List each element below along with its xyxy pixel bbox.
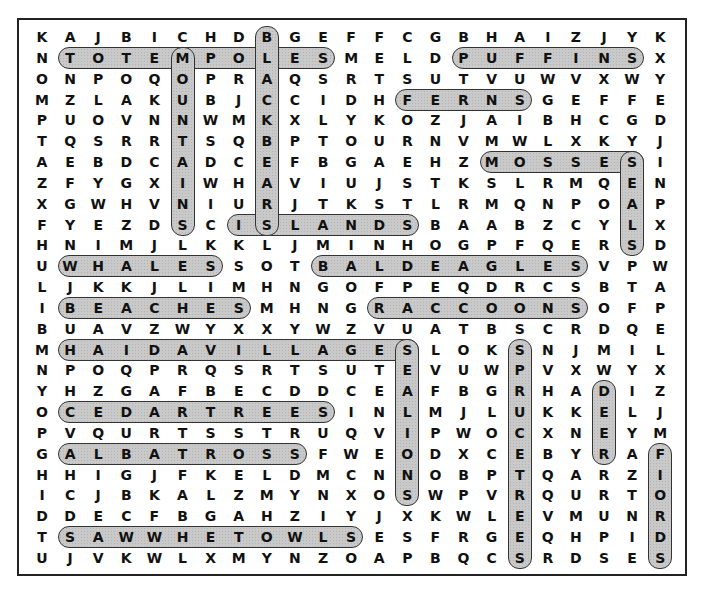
grid-letter[interactable]: L: [86, 90, 110, 110]
grid-letter[interactable]: Q: [227, 131, 251, 151]
grid-letter[interactable]: F: [620, 298, 644, 318]
grid-letter[interactable]: H: [367, 90, 391, 110]
grid-letter[interactable]: F: [171, 381, 195, 401]
grid-letter[interactable]: G: [114, 381, 138, 401]
grid-letter[interactable]: N: [311, 485, 335, 505]
grid-letter[interactable]: S: [508, 319, 532, 339]
grid-letter[interactable]: J: [283, 194, 307, 214]
grid-letter[interactable]: C: [142, 298, 166, 318]
grid-letter[interactable]: T: [255, 423, 279, 443]
grid-letter[interactable]: U: [480, 48, 504, 68]
grid-letter[interactable]: Y: [58, 215, 82, 235]
grid-letter[interactable]: S: [311, 69, 335, 89]
grid-letter[interactable]: O: [339, 548, 363, 568]
grid-letter[interactable]: D: [227, 27, 251, 47]
grid-letter[interactable]: I: [564, 48, 588, 68]
grid-letter[interactable]: D: [648, 527, 672, 547]
grid-letter[interactable]: H: [199, 27, 223, 47]
grid-letter[interactable]: Z: [564, 27, 588, 47]
grid-letter[interactable]: U: [227, 194, 251, 214]
grid-letter[interactable]: B: [199, 381, 223, 401]
grid-letter[interactable]: U: [30, 548, 54, 568]
grid-letter[interactable]: W: [311, 319, 335, 339]
grid-letter[interactable]: T: [452, 69, 476, 89]
grid-letter[interactable]: D: [367, 215, 391, 235]
grid-letter[interactable]: W: [339, 444, 363, 464]
grid-letter[interactable]: Z: [339, 319, 363, 339]
grid-letter[interactable]: E: [592, 152, 616, 172]
grid-letter[interactable]: G: [311, 277, 335, 297]
grid-letter[interactable]: U: [339, 173, 363, 193]
grid-letter[interactable]: T: [171, 423, 195, 443]
grid-letter[interactable]: H: [86, 256, 110, 276]
grid-letter[interactable]: L: [255, 465, 279, 485]
grid-letter[interactable]: T: [171, 131, 195, 151]
grid-letter[interactable]: E: [199, 298, 223, 318]
grid-letter[interactable]: M: [30, 340, 54, 360]
grid-letter[interactable]: I: [311, 90, 335, 110]
grid-letter[interactable]: S: [171, 215, 195, 235]
grid-letter[interactable]: N: [367, 402, 391, 422]
grid-letter[interactable]: I: [171, 173, 195, 193]
grid-letter[interactable]: E: [423, 277, 447, 297]
grid-letter[interactable]: F: [423, 527, 447, 547]
grid-letter[interactable]: A: [395, 381, 419, 401]
grid-letter[interactable]: H: [564, 110, 588, 130]
grid-letter[interactable]: A: [452, 256, 476, 276]
grid-letter[interactable]: B: [480, 319, 504, 339]
grid-letter[interactable]: B: [311, 256, 335, 276]
grid-letter[interactable]: Y: [339, 110, 363, 130]
grid-letter[interactable]: J: [452, 110, 476, 130]
grid-letter[interactable]: T: [283, 256, 307, 276]
grid-letter[interactable]: Q: [592, 173, 616, 193]
grid-letter[interactable]: F: [508, 48, 532, 68]
grid-letter[interactable]: S: [255, 444, 279, 464]
grid-letter[interactable]: A: [311, 340, 335, 360]
grid-letter[interactable]: N: [142, 110, 166, 130]
grid-letter[interactable]: R: [592, 444, 616, 464]
grid-letter[interactable]: Z: [30, 173, 54, 193]
grid-letter[interactable]: O: [30, 69, 54, 89]
grid-letter[interactable]: L: [255, 235, 279, 255]
grid-letter[interactable]: A: [367, 152, 391, 172]
grid-letter[interactable]: R: [395, 131, 419, 151]
grid-letter[interactable]: L: [508, 256, 532, 276]
grid-letter[interactable]: Q: [536, 527, 560, 547]
grid-letter[interactable]: Y: [199, 319, 223, 339]
grid-letter[interactable]: Y: [283, 485, 307, 505]
grid-letter[interactable]: Z: [142, 319, 166, 339]
grid-letter[interactable]: S: [480, 173, 504, 193]
grid-letter[interactable]: V: [142, 194, 166, 214]
grid-letter[interactable]: E: [58, 152, 82, 172]
grid-letter[interactable]: T: [171, 444, 195, 464]
grid-letter[interactable]: B: [171, 506, 195, 526]
grid-letter[interactable]: C: [508, 423, 532, 443]
grid-letter[interactable]: E: [423, 256, 447, 276]
grid-letter[interactable]: S: [508, 548, 532, 568]
grid-letter[interactable]: S: [564, 256, 588, 276]
grid-letter[interactable]: T: [311, 131, 335, 151]
grid-letter[interactable]: D: [114, 152, 138, 172]
grid-letter[interactable]: H: [30, 465, 54, 485]
grid-letter[interactable]: Q: [452, 548, 476, 568]
grid-letter[interactable]: D: [142, 340, 166, 360]
grid-letter[interactable]: N: [536, 340, 560, 360]
grid-letter[interactable]: G: [339, 152, 363, 172]
grid-letter[interactable]: F: [58, 173, 82, 193]
grid-letter[interactable]: B: [114, 485, 138, 505]
grid-letter[interactable]: G: [199, 506, 223, 526]
grid-letter[interactable]: D: [339, 90, 363, 110]
grid-letter[interactable]: I: [311, 173, 335, 193]
grid-letter[interactable]: H: [171, 527, 195, 547]
grid-letter[interactable]: S: [508, 340, 532, 360]
grid-letter[interactable]: K: [30, 27, 54, 47]
grid-letter[interactable]: T: [620, 485, 644, 505]
grid-letter[interactable]: D: [423, 48, 447, 68]
grid-letter[interactable]: G: [480, 256, 504, 276]
grid-letter[interactable]: A: [620, 444, 644, 464]
grid-letter[interactable]: V: [86, 548, 110, 568]
grid-letter[interactable]: M: [480, 131, 504, 151]
grid-letter[interactable]: T: [311, 194, 335, 214]
grid-letter[interactable]: N: [171, 194, 195, 214]
grid-letter[interactable]: W: [592, 360, 616, 380]
